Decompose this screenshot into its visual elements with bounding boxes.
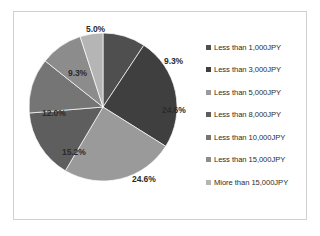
- legend-item-label: Less than 1,000JPY: [214, 43, 281, 52]
- legend-item-label: Less than 3,000JPY: [214, 65, 281, 74]
- legend-swatch-icon: [206, 112, 211, 117]
- legend-swatch-icon: [206, 67, 211, 72]
- legend-swatch-icon: [206, 90, 211, 95]
- legend-item-label: Less than 5,000JPY: [214, 88, 281, 97]
- legend-item[interactable]: Less than 1,000JPY: [206, 36, 306, 59]
- chart-frame: 9.3%24.6%24.6%15.2%12.0%9.3%5.0% Less th…: [13, 11, 307, 220]
- legend-item-label: Miore than 15,000JPY: [214, 178, 288, 187]
- pie-slices: [29, 33, 177, 181]
- legend-item[interactable]: Less than 10,000JPY: [206, 126, 306, 149]
- legend-swatch-icon: [206, 45, 211, 50]
- legend-item[interactable]: Less than 3,000JPY: [206, 59, 306, 82]
- plot-area: 9.3%24.6%24.6%15.2%12.0%9.3%5.0% Less th…: [14, 12, 308, 221]
- legend-item[interactable]: Less than 15,000JPY: [206, 149, 306, 172]
- pie-chart[interactable]: [28, 32, 178, 182]
- pie-slice-value-label: 15.2%: [62, 147, 86, 157]
- pie-slice-value-label: 24.6%: [132, 174, 156, 184]
- chart-legend: Less than 1,000JPYLess than 3,000JPYLess…: [206, 36, 306, 194]
- legend-swatch-icon: [206, 180, 211, 185]
- legend-item-label: Less than 10,000JPY: [214, 133, 285, 142]
- legend-item-label: Less than 8,000JPY: [214, 110, 281, 119]
- pie-slice-value-label: 9.3%: [164, 56, 183, 66]
- pie-slice-value-label: 24.6%: [162, 105, 186, 115]
- legend-item[interactable]: Less than 5,000JPY: [206, 81, 306, 104]
- pie-slice-value-label: 12.0%: [42, 108, 66, 118]
- legend-swatch-icon: [206, 157, 211, 162]
- legend-swatch-icon: [206, 135, 211, 140]
- pie-slice-value-label: 5.0%: [86, 24, 105, 34]
- legend-item-label: Less than 15,000JPY: [214, 155, 285, 164]
- pie-slice-value-label: 9.3%: [68, 68, 87, 78]
- legend-item[interactable]: Miore than 15,000JPY: [206, 171, 306, 194]
- legend-item[interactable]: Less than 8,000JPY: [206, 104, 306, 127]
